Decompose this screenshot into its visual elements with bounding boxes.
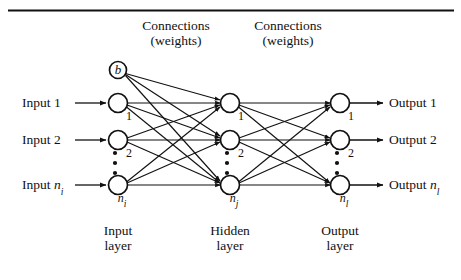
node-index-hidden-1: 1 — [238, 110, 244, 123]
input-label-n-base: Input — [22, 177, 51, 192]
node-index-hidden-n-sub: j — [236, 199, 239, 209]
input-layer-nodes — [109, 94, 128, 195]
output-label-2-base: Output — [389, 132, 427, 147]
output-label-1-base: Output — [389, 95, 427, 110]
node-output-2 — [331, 131, 350, 150]
output-layer-nodes — [331, 94, 350, 195]
output-label-n-sub: l — [437, 187, 440, 197]
input-label-n: Input ni — [22, 177, 63, 195]
input-arrows — [75, 103, 106, 185]
layer-caption-output-line2: layer — [321, 238, 359, 253]
header-connections-1-line2: (weights) — [142, 33, 210, 48]
node-index-input-n-sub: i — [124, 199, 127, 209]
output-ellipsis-dots — [335, 151, 339, 175]
layer-caption-output: Output layer — [321, 223, 359, 253]
node-index-input-n: ni — [118, 192, 127, 208]
layer-caption-hidden-line2: layer — [210, 238, 250, 253]
layer-caption-input-line2: layer — [104, 238, 133, 253]
layer-caption-input-line1: Input — [104, 223, 133, 238]
header-connections-1-line1: Connections — [142, 18, 210, 33]
node-output-1 — [331, 94, 350, 113]
header-connections-1: Connections (weights) — [142, 18, 210, 48]
output-label-n: Output nl — [389, 177, 439, 195]
output-label-n-base: Output — [389, 177, 427, 192]
neural-network-figure: Connections (weights) Connections (weigh… — [0, 0, 461, 280]
output-label-1: Output 1 — [389, 95, 437, 110]
hidden-output-connections — [239, 103, 331, 185]
layer-caption-output-line1: Output — [321, 223, 359, 238]
node-index-hidden-n: nj — [230, 192, 239, 208]
header-connections-2-line1: Connections — [254, 18, 322, 33]
node-hidden-2 — [221, 131, 240, 150]
header-connections-2: Connections (weights) — [254, 18, 322, 48]
node-input-1 — [109, 94, 128, 113]
input-ellipsis-dots — [113, 151, 117, 175]
layer-caption-hidden: Hidden layer — [210, 223, 250, 253]
header-connections-2-line2: (weights) — [254, 33, 322, 48]
bias-connections — [126, 74, 221, 182]
hidden-ellipsis-dots — [225, 151, 229, 175]
output-label-2: Output 2 — [389, 132, 437, 147]
input-label-1: Input 1 — [22, 95, 61, 110]
node-index-hidden-2: 2 — [238, 147, 244, 160]
node-hidden-1 — [221, 94, 240, 113]
input-label-1-base: Input — [22, 95, 51, 110]
input-label-n-sub: i — [61, 187, 64, 197]
node-index-output-n: nl — [340, 192, 349, 208]
node-index-output-1: 1 — [348, 110, 354, 123]
input-hidden-connections — [127, 103, 221, 185]
node-index-input-2: 2 — [126, 147, 132, 160]
bias-node-label: b — [115, 63, 122, 78]
hidden-layer-nodes — [221, 94, 240, 195]
layer-caption-input: Input layer — [104, 223, 133, 253]
node-index-output-2: 2 — [348, 147, 354, 160]
input-label-2: Input 2 — [22, 132, 61, 147]
node-input-2 — [109, 131, 128, 150]
node-index-input-1: 1 — [126, 110, 132, 123]
node-index-output-n-sub: l — [346, 199, 349, 209]
layer-caption-hidden-line1: Hidden — [210, 223, 250, 238]
input-label-2-base: Input — [22, 132, 51, 147]
output-arrows — [350, 103, 383, 185]
